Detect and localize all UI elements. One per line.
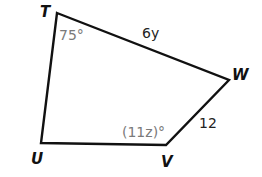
side-label-WV: 12 [199,115,217,131]
vertex-label-V: V [161,153,174,171]
angle-label-V: (11z)° [122,124,165,140]
angle-label-T: 75° [59,27,84,43]
vertex-label-T: T [40,3,52,21]
quadrilateral-diagram: T W V U 6y 12 75° (11z)° [0,0,262,177]
vertex-label-W: W [232,66,250,84]
side-label-TW: 6y [142,25,159,41]
vertex-label-U: U [31,150,43,168]
